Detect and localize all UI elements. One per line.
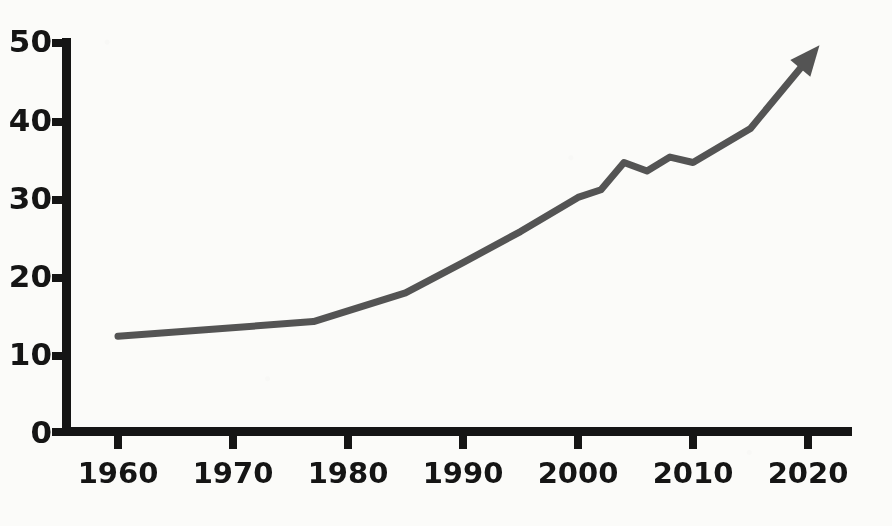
- data-series-line: [118, 58, 809, 337]
- x-axis-ticks: [114, 436, 812, 449]
- chart-canvas: [0, 0, 892, 526]
- y-axis-spine: [62, 38, 71, 434]
- line-chart: 50 40 30 20 10 0 1960 1970 1980 1990 200…: [0, 0, 892, 526]
- x-axis-spine: [62, 427, 852, 436]
